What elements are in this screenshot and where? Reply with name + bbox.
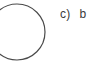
worksheet-fragment: c) b: [0, 0, 95, 62]
option-marker-label: c): [60, 7, 70, 22]
answer-option-row: c) b: [60, 7, 95, 22]
option-text-label: b: [79, 7, 86, 22]
circle-outline-icon: [0, 4, 45, 60]
